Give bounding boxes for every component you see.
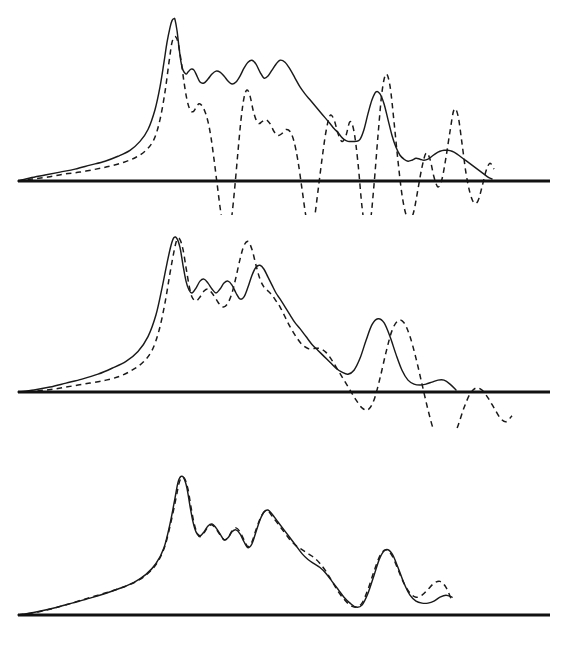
panel-middle-solid-curve bbox=[18, 237, 456, 392]
panel-middle-plot bbox=[0, 215, 570, 430]
panel-top bbox=[0, 0, 570, 215]
panel-bottom bbox=[0, 430, 570, 645]
figure-root bbox=[0, 0, 570, 645]
panel-middle bbox=[0, 215, 570, 430]
panel-top-solid-curve bbox=[18, 18, 492, 181]
panel-bottom-plot bbox=[0, 430, 570, 645]
panel-top-plot bbox=[0, 0, 570, 215]
panel-bottom-solid-curve bbox=[18, 476, 452, 615]
panel-bottom-dashed-curve bbox=[18, 477, 452, 615]
panel-middle-dashed-curve bbox=[18, 238, 512, 430]
